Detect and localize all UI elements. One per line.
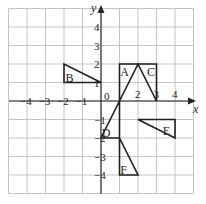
triangle-label-f: F — [120, 163, 127, 177]
y-tick-label: −3 — [94, 151, 106, 163]
x-tick-label: −1 — [76, 95, 88, 107]
coordinate-grid-diagram: x y 0 −4−3−2−12344321−1−2−3−4 ABCDEF — [0, 0, 206, 204]
axes: x y 0 — [9, 1, 199, 194]
x-tick-label: 4 — [172, 88, 178, 100]
triangle-label-e: E — [163, 124, 170, 138]
y-tick-label: 3 — [94, 40, 100, 52]
y-axis-arrow-icon — [98, 5, 105, 13]
triangle-label-a: A — [120, 65, 129, 79]
x-tick-label: −3 — [39, 95, 51, 107]
origin-label: 0 — [104, 90, 110, 102]
y-axis-label: y — [90, 1, 97, 15]
x-tick-label: −2 — [57, 95, 69, 107]
triangle-label-d: D — [102, 126, 111, 140]
y-tick-label: −4 — [94, 169, 106, 181]
x-axis-label: x — [192, 102, 199, 116]
x-tick-label: 2 — [135, 88, 141, 100]
triangle-label-c: C — [147, 65, 155, 79]
triangle-label-b: B — [66, 71, 74, 85]
y-tick-label: 2 — [94, 58, 100, 70]
y-tick-label: −1 — [94, 114, 106, 126]
shapes: ABCDEF — [64, 64, 175, 177]
x-tick-label: −4 — [20, 95, 32, 107]
y-tick-label: 4 — [94, 21, 100, 33]
